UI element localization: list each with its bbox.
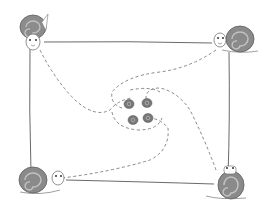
rectangle-outline — [30, 42, 230, 184]
snail-bottom-left — [19, 167, 64, 194]
drawing — [0, 0, 276, 216]
center-snails — [124, 99, 153, 125]
snail-spiral-illustration: Four snails at the corners of a rectangl… — [0, 0, 276, 216]
snail-bottom-right — [206, 166, 246, 199]
snail-top-right — [214, 26, 258, 52]
dashed-paths — [40, 50, 216, 178]
snail-top-left — [20, 14, 48, 50]
